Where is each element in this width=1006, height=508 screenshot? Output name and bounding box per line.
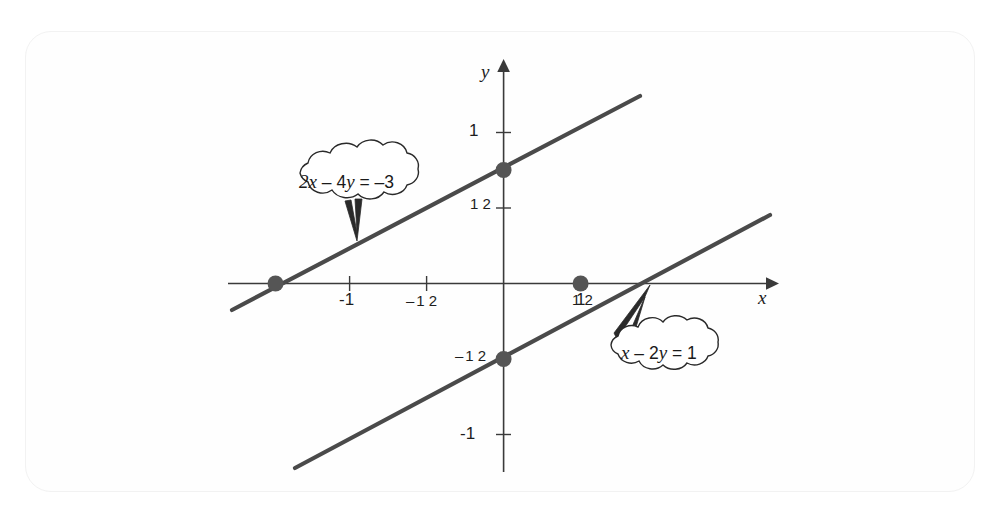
- x-tick-label--0.5-sign: –: [406, 292, 414, 309]
- figure-canvas: 2x – 4y = –3 x – 2y = 1 y x -1 – 1 2: [0, 0, 1006, 508]
- callout-lower-line[interactable]: x – 2y = 1: [611, 285, 718, 369]
- callout-upper-pointer: [345, 199, 362, 241]
- y-tick-label-1: 1: [469, 121, 478, 141]
- y-tick-label--0.5-sign: –: [455, 347, 463, 364]
- point-lower-y-intercept[interactable]: [496, 351, 512, 367]
- callout-upper-label: 2x – 4y = –3: [299, 171, 394, 192]
- x-tick-label-1: 1: [576, 290, 585, 310]
- x-axis-arrow-icon: [766, 277, 779, 290]
- point-upper-x-intercept[interactable]: [268, 276, 284, 292]
- callout-upper-line[interactable]: 2x – 4y = –3: [299, 140, 418, 241]
- coordinate-plane: 2x – 4y = –3 x – 2y = 1 y x: [0, 0, 1006, 508]
- y-tick-label-0.5: 1 2: [470, 196, 491, 211]
- y-axis-label: y: [479, 61, 490, 82]
- y-tick-label--1: -1: [460, 424, 475, 444]
- x-tick-label--1: -1: [339, 290, 354, 310]
- x-axis-label: x: [757, 287, 767, 308]
- x-tick-label--0.5-fraction: 1 2: [416, 293, 437, 308]
- y-axis-arrow-icon: [497, 59, 510, 72]
- y-tick-label--0.5: – 1 2: [455, 347, 486, 364]
- point-upper-y-intercept[interactable]: [496, 162, 512, 178]
- y-tick-label--0.5-fraction: 1 2: [465, 348, 486, 363]
- axis-group: [228, 59, 779, 472]
- x-tick-label--0.5: – 1 2: [406, 292, 437, 309]
- y-tick-label-0.5-fraction: 1 2: [470, 196, 491, 211]
- callout-lower-label: x – 2y = 1: [620, 342, 697, 363]
